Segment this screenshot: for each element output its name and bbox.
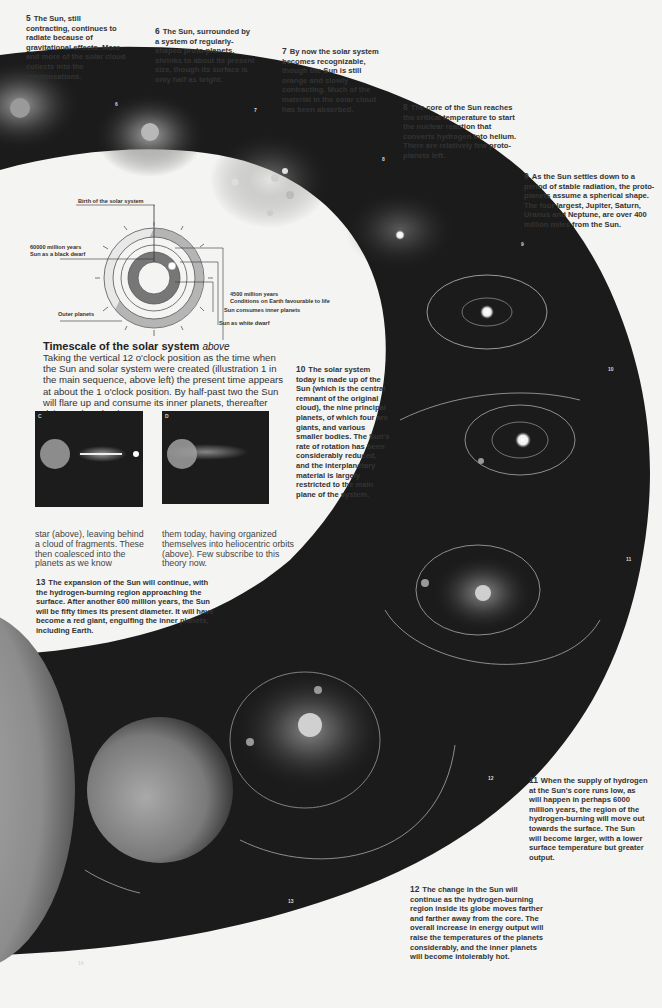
panel-text-left: star (above), leaving behind a cloud of … bbox=[35, 530, 150, 569]
caption-13: 13The expansion of the Sun will continue… bbox=[36, 578, 216, 636]
band-number: 8 bbox=[382, 156, 385, 162]
caption-9: 9As the Sun settles down to a period of … bbox=[524, 172, 659, 230]
band-number: 12 bbox=[488, 775, 494, 781]
label-birth: Birth of the solar system bbox=[78, 198, 144, 205]
band-number: 9 bbox=[521, 241, 524, 247]
label-black-dwarf-years: 60000 million years bbox=[30, 244, 81, 251]
band-number: 7 bbox=[254, 107, 257, 113]
band-number: 13 bbox=[288, 898, 294, 904]
band-number: 6 bbox=[115, 101, 118, 107]
label-black-dwarf: Sun as a black dwarf bbox=[30, 251, 85, 258]
timescale-title: Timescale of the solar system above bbox=[43, 340, 230, 352]
timescale-diagram bbox=[0, 195, 330, 340]
fragment-cloud bbox=[164, 444, 249, 460]
sun-disc bbox=[40, 439, 70, 469]
label-earth-years: 4500 million years bbox=[230, 291, 278, 298]
panel-text-right: them today, having organized themselves … bbox=[162, 530, 302, 569]
label-consumes: Sun consumes inner planets bbox=[224, 307, 300, 314]
illustration-panel-d: D bbox=[162, 411, 269, 504]
band-number: 11 bbox=[626, 556, 631, 562]
caption-11: 11When the supply of hydrogen at the Sun… bbox=[529, 776, 649, 862]
star-dot bbox=[133, 451, 139, 457]
label-white-dwarf: Sun as white dwarf bbox=[219, 320, 270, 327]
caption-7: 7By now the solar system becomes recogni… bbox=[282, 47, 382, 114]
caption-6: 6The Sun, surrounded by a system of regu… bbox=[155, 27, 255, 85]
arrow-icon bbox=[80, 453, 122, 455]
label-earth-life: Conditions on Earth favourable to life bbox=[230, 298, 330, 305]
band-number: 10 bbox=[608, 366, 614, 372]
caption-5: 5The Sun, still contracting, continues t… bbox=[26, 14, 126, 81]
caption-10: 10The solar system today is made up of t… bbox=[296, 365, 391, 499]
timescale-body: Taking the vertical 12 o'clock position … bbox=[43, 352, 283, 419]
caption-8: 8The core of the Sun reaches the critica… bbox=[403, 103, 518, 161]
illustration-panel-c: C bbox=[35, 411, 143, 507]
band-number: 14 bbox=[78, 960, 84, 966]
label-outer-planets: Outer planets bbox=[58, 311, 94, 318]
caption-12: 12The change in the Sun will continue as… bbox=[410, 885, 545, 962]
